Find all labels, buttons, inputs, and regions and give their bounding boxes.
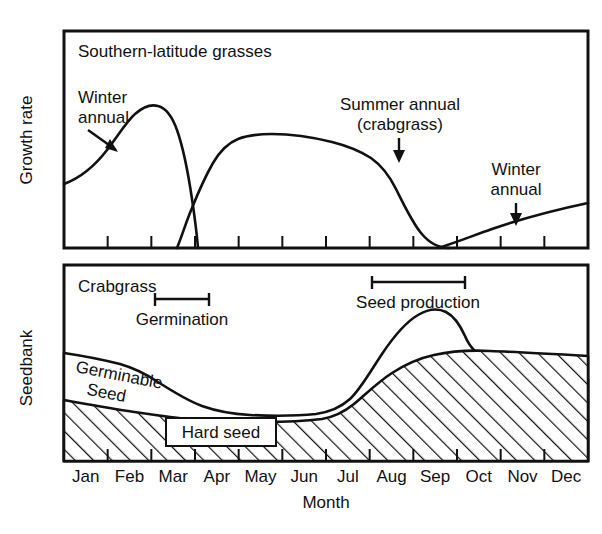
growth-rate-y-axis-label: Growth rate (17, 96, 36, 185)
month-label-mar: Mar (159, 467, 189, 486)
month-label-nov: Nov (507, 467, 538, 486)
month-label-sep: Sep (420, 467, 450, 486)
month-label-may: May (244, 467, 277, 486)
winter-annual-right-line2: annual (490, 180, 541, 199)
summer-annual-line1: Summer annual (340, 95, 460, 114)
seedbank-species-label: Crabgrass (78, 277, 156, 296)
winter-annual-left-line2: annual (78, 108, 129, 127)
month-label-dec: Dec (551, 467, 582, 486)
month-label-oct: Oct (466, 467, 493, 486)
figure-root: Growth rate Southern-latitude grasses Wi… (0, 0, 602, 534)
hard-seed-label-text: Hard seed (182, 423, 260, 442)
seed-production-bracket: Seed production (356, 276, 480, 312)
hard-seed-label: Hard seed (166, 418, 276, 446)
month-label-apr: Apr (204, 467, 231, 486)
figure-svg: Growth rate Southern-latitude grasses Wi… (0, 0, 602, 534)
winter-annual-left-line1: Winter (78, 88, 127, 107)
seedbank-y-axis-label: Seedbank (17, 329, 36, 406)
month-label-aug: Aug (376, 467, 406, 486)
summer-annual-line2: (crabgrass) (357, 115, 443, 134)
month-label-jun: Jun (290, 467, 317, 486)
growth-rate-panel-title: Southern-latitude grasses (78, 42, 272, 61)
month-axis: JanFebMarAprMayJunJulAugSepOctNovDec (72, 467, 582, 486)
x-axis-label: Month (302, 493, 349, 512)
panel-growth-rate: Growth rate Southern-latitude grasses Wi… (17, 31, 588, 248)
panel-seedbank: Seedbank Crabgrass Germination Seed prod… (17, 265, 588, 461)
month-label-feb: Feb (115, 467, 144, 486)
month-label-jul: Jul (337, 467, 359, 486)
germination-label: Germination (136, 310, 229, 329)
month-label-jan: Jan (72, 467, 99, 486)
winter-annual-right-line1: Winter (491, 160, 540, 179)
seed-production-label: Seed production (356, 293, 480, 312)
